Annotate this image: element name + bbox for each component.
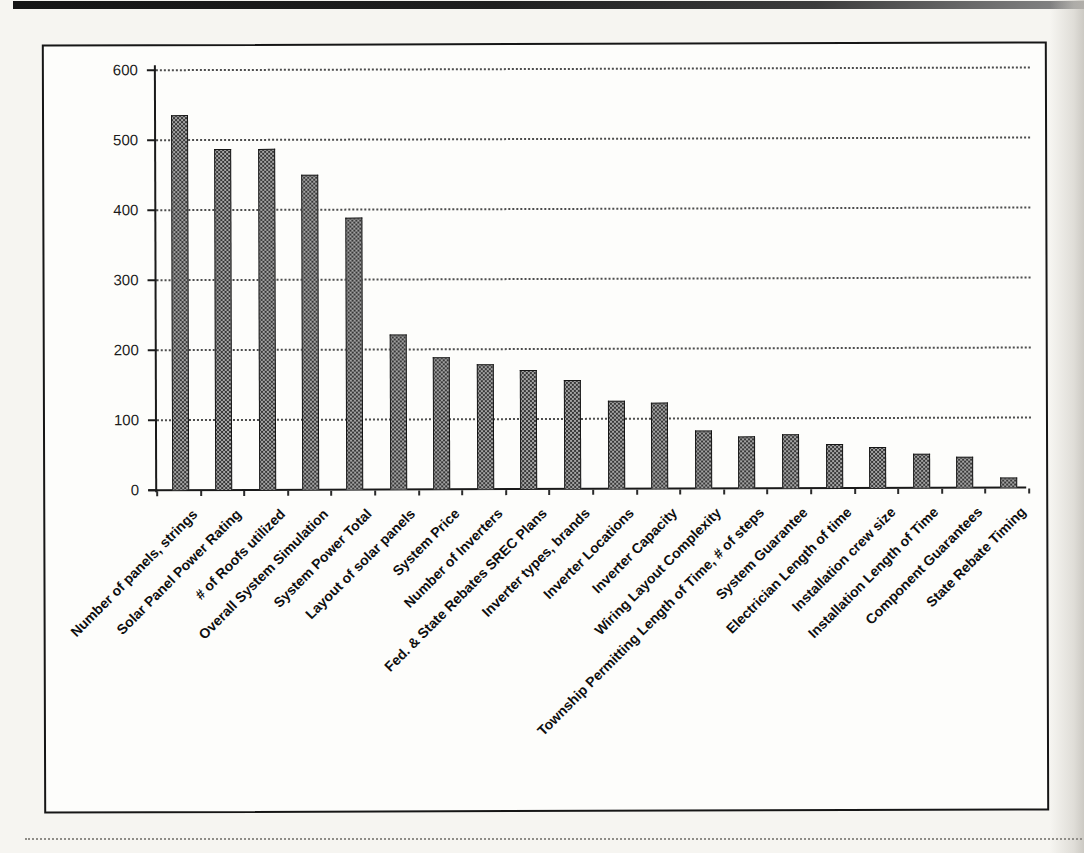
bar: [433, 357, 450, 489]
gridline-100: [157, 416, 1031, 421]
x-axis-tick: [156, 491, 158, 496]
x-axis-tick: [243, 491, 245, 496]
x-axis-tick: [985, 489, 987, 494]
bar: [258, 149, 276, 490]
gridline-600: [156, 66, 1030, 71]
bar: [607, 401, 624, 489]
y-axis-label: 300: [95, 271, 139, 289]
bar: [214, 149, 232, 490]
y-axis-label: 400: [94, 201, 138, 219]
gridline-400: [156, 206, 1030, 211]
page-edge-shadow: [1050, 0, 1084, 853]
x-axis-tick: [374, 491, 376, 496]
x-axis-tick: [549, 490, 551, 495]
plot-area: 0100200300400500600Number of panels, str…: [156, 67, 1031, 490]
x-axis-tick: [592, 490, 594, 495]
x-axis-tick: [854, 489, 856, 494]
gridline-500: [156, 136, 1030, 141]
bar: [782, 434, 799, 488]
x-axis-tick: [767, 489, 769, 494]
gridline-300: [157, 276, 1031, 281]
bar: [476, 364, 493, 489]
x-axis-tick: [331, 491, 333, 496]
x-axis-tick: [200, 491, 202, 496]
scanned-page: 0100200300400500600Number of panels, str…: [0, 0, 1084, 853]
bar: [738, 436, 755, 488]
bar: [171, 115, 189, 490]
x-axis-tick: [1028, 488, 1030, 493]
bar: [651, 403, 668, 489]
bar: [389, 334, 406, 489]
bar: [1000, 478, 1017, 488]
x-axis-tick: [679, 490, 681, 495]
bar: [826, 444, 843, 488]
y-axis-label: 600: [94, 61, 138, 79]
x-axis-tick: [287, 491, 289, 496]
x-axis-tick: [505, 490, 507, 495]
bar: [956, 457, 973, 488]
x-axis-tick: [941, 489, 943, 494]
bar: [302, 175, 320, 490]
x-axis-tick: [636, 490, 638, 495]
x-axis-label: Fed. & State Rebates SREC Plans: [381, 505, 550, 675]
bar: [345, 218, 363, 490]
page-top-rule: [13, 1, 1084, 9]
x-axis-tick: [461, 490, 463, 495]
y-axis-label: 100: [95, 411, 139, 429]
bar: [564, 380, 581, 489]
bar: [913, 454, 930, 488]
x-axis-tick: [418, 490, 420, 495]
y-axis-label: 0: [95, 481, 139, 499]
y-axis-label: 500: [94, 131, 138, 149]
x-axis-tick: [810, 489, 812, 494]
x-axis-tick: [897, 489, 899, 494]
bar: [695, 430, 712, 488]
x-axis-tick: [723, 489, 725, 494]
y-axis-label: 200: [95, 341, 139, 359]
page-bottom-rule: [25, 838, 1082, 840]
bar: [869, 447, 886, 488]
chart-frame: 0100200300400500600Number of panels, str…: [42, 41, 1049, 813]
bar: [520, 370, 537, 489]
x-axis: [148, 486, 1026, 491]
gridline-200: [157, 346, 1031, 351]
